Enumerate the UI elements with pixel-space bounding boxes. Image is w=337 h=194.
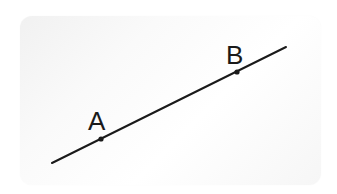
line-ab bbox=[52, 47, 286, 163]
point-b bbox=[234, 69, 239, 74]
point-a bbox=[98, 136, 103, 141]
label-b: B bbox=[226, 40, 243, 70]
label-a: A bbox=[88, 106, 106, 136]
diagram-canvas: A B bbox=[0, 0, 337, 194]
